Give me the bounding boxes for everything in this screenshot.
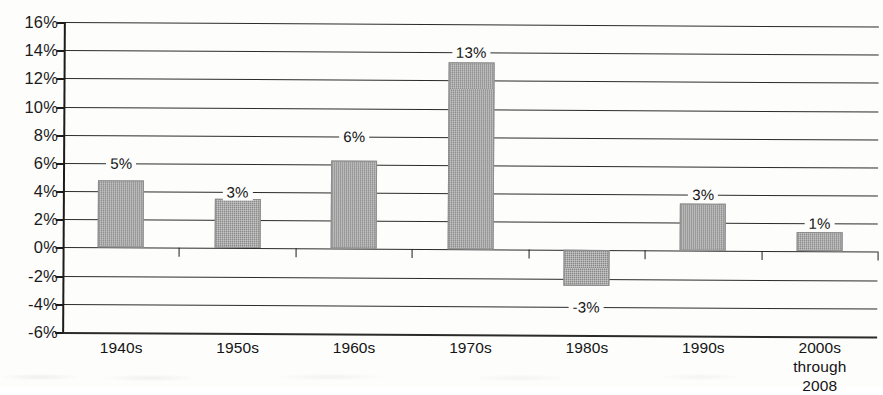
y-axis-tick [57, 22, 65, 24]
x-axis-tick [528, 250, 529, 259]
y-axis-tick-label: 16% [24, 13, 58, 32]
y-axis-tick [56, 247, 64, 249]
bar-value-label: 6% [339, 128, 369, 145]
bar-value-label: 3% [222, 183, 252, 200]
y-axis-tick-label: -4% [28, 294, 58, 313]
y-axis-tick-label: 2% [34, 210, 58, 229]
gridline [64, 22, 879, 28]
y-axis-tick [55, 332, 63, 334]
y-axis-tick [56, 219, 64, 221]
bar [796, 232, 842, 252]
x-axis-category-label: 1980s [566, 338, 609, 357]
x-axis-tick [179, 248, 180, 257]
y-axis-tick-label: 14% [24, 41, 58, 60]
bar-value-label: 13% [452, 44, 491, 61]
y-axis-line [62, 22, 66, 332]
y-axis-tick-label: 6% [34, 153, 58, 172]
bar [563, 250, 609, 285]
bar [214, 199, 260, 249]
x-axis-category-label: 1950s [216, 338, 259, 357]
gridlines-layer [64, 22, 879, 27]
bar [680, 203, 726, 251]
x-axis-category-label: 1990s [682, 338, 725, 357]
gridline [62, 276, 877, 282]
x-axis-category-label: 1940s [100, 338, 143, 357]
y-axis-tick-label: -6% [28, 323, 58, 342]
x-axis-tick [412, 249, 413, 258]
y-axis-tick [57, 78, 65, 80]
y-axis-tick-label: 0% [34, 238, 58, 257]
x-axis-category-label: 1960s [333, 338, 376, 357]
bar-value-label: 1% [804, 215, 834, 232]
gridline [62, 304, 877, 310]
bar [98, 180, 144, 248]
y-axis-tick [55, 304, 63, 306]
y-axis-tick [56, 135, 64, 137]
bar-value-label: 5% [106, 155, 136, 172]
bar [447, 62, 494, 250]
x-axis-category-labels: 1940s1950s1960s1970s1980s1990s2000s thro… [63, 338, 878, 384]
y-axis-tick [56, 163, 64, 165]
x-axis-tick [645, 251, 646, 260]
bar [331, 160, 377, 249]
x-axis-tick [295, 249, 296, 258]
y-axis-tick [57, 50, 65, 52]
y-axis-tick-labels: 16%14%12%10%8%6%4%2%0%-2%-4%-6% [0, 22, 58, 332]
plot-area: 5%3%6%13%-3%3%1% [63, 22, 878, 332]
y-axis-tick-label: 12% [24, 69, 58, 88]
y-axis-tick-label: 4% [34, 182, 58, 201]
x-axis-tick [761, 251, 762, 260]
y-axis-tick-label: -2% [28, 266, 58, 285]
y-axis-tick-label: 8% [34, 125, 58, 144]
x-axis-tick [878, 252, 879, 261]
x-axis-category-label: 2000s through 2008 [791, 338, 849, 395]
y-axis-tick [56, 191, 64, 193]
bar-value-label: -3% [569, 298, 604, 315]
y-axis-tick [55, 276, 63, 278]
y-axis-tick-label: 10% [24, 97, 58, 116]
plot-tilt-wrapper: 5%3%6%13%-3%3%1% [62, 22, 879, 337]
bar-value-label: 3% [688, 186, 718, 203]
x-axis-category-label: 1970s [449, 338, 492, 357]
y-axis-tick [56, 106, 64, 108]
